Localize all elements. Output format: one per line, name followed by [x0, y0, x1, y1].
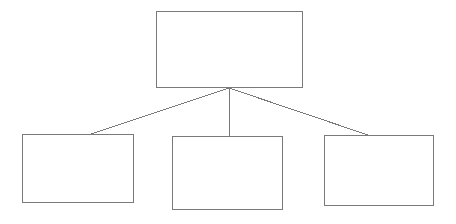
node-root-label — [226, 48, 234, 52]
diagram-canvas — [0, 0, 456, 224]
node-child-3[interactable] — [324, 135, 434, 206]
connector-root-to-child-3 — [229, 88, 368, 135]
node-child-2[interactable] — [172, 136, 283, 210]
node-root[interactable] — [156, 11, 303, 88]
node-child-1-label — [74, 167, 82, 171]
node-child-1[interactable] — [22, 134, 134, 203]
node-child-3-label — [375, 169, 383, 173]
node-child-2-label — [224, 171, 232, 175]
connector-root-to-child-1 — [88, 88, 229, 135]
